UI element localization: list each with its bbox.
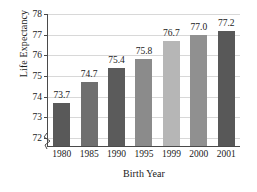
bar-value-label: 75.8 <box>136 46 153 56</box>
bar-group: 75.41990 <box>103 14 130 146</box>
y-tick-label: 77 <box>33 30 43 40</box>
plot-area: 72737475767778 73.7198074.7198575.419907… <box>48 14 240 146</box>
y-axis-title: Life Expectancy <box>18 0 29 114</box>
bar-group: 73.71980 <box>48 14 75 146</box>
bar[interactable] <box>190 35 207 146</box>
bar-group: 77.02000 <box>185 14 212 146</box>
bar-value-label: 75.4 <box>108 55 125 65</box>
x-tick-label: 1985 <box>80 149 99 159</box>
bar-value-label: 76.7 <box>163 28 180 38</box>
y-tick-label: 76 <box>33 50 43 60</box>
bar-value-label: 77.0 <box>191 22 208 32</box>
bar[interactable] <box>53 103 70 146</box>
x-tick-label: 1995 <box>134 149 153 159</box>
y-tick-label: 78 <box>33 9 43 19</box>
bar-series: 73.7198074.7198575.4199075.8199576.71999… <box>48 14 240 146</box>
y-tick-label: 72 <box>33 133 43 143</box>
x-tick-label: 1999 <box>162 149 181 159</box>
bar[interactable] <box>81 82 98 146</box>
y-tick-label: 75 <box>33 71 43 81</box>
bar-value-label: 74.7 <box>81 69 98 79</box>
x-axis-title: Birth Year <box>48 168 240 179</box>
y-tick-label: 73 <box>33 112 43 122</box>
bar-group: 74.71985 <box>75 14 102 146</box>
bar[interactable] <box>218 31 235 147</box>
x-tick-label: 1990 <box>107 149 126 159</box>
bar-group: 77.22001 <box>213 14 240 146</box>
bar-value-label: 73.7 <box>53 90 70 100</box>
x-axis-line <box>47 146 240 147</box>
bar[interactable] <box>163 41 180 146</box>
bar-group: 76.71999 <box>158 14 185 146</box>
x-tick-label: 2000 <box>189 149 208 159</box>
x-tick-label: 1980 <box>52 149 71 159</box>
bar-group: 75.81995 <box>130 14 157 146</box>
x-tick-label: 2001 <box>217 149 236 159</box>
y-tick-label: 74 <box>33 92 43 102</box>
bar[interactable] <box>108 68 125 146</box>
life-expectancy-bar-chart: Life Expectancy 72737475767778 73.719807… <box>0 0 257 192</box>
bar[interactable] <box>135 59 152 146</box>
bar-value-label: 77.2 <box>218 18 235 28</box>
